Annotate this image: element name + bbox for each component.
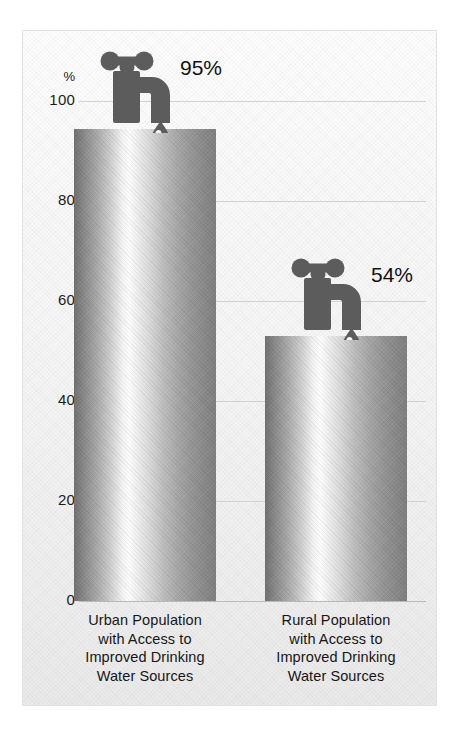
data-label-rural: 54%: [371, 263, 413, 287]
bar-urban-population[interactable]: [74, 129, 216, 601]
category-label-rural-line-4: Water Sources: [250, 667, 422, 686]
y-tick-label-40: 40: [29, 391, 75, 408]
y-tick-label-0: 0: [29, 591, 75, 608]
category-label-urban-line-3: Improved Drinking: [59, 648, 231, 667]
faucet-icon-rural: [287, 258, 371, 340]
y-tick-label-20: 20: [29, 491, 75, 508]
bar-rural-population[interactable]: [265, 336, 407, 601]
y-tick-label-80: 80: [29, 191, 75, 208]
category-label-urban: Urban Population with Access to Improved…: [59, 611, 231, 685]
faucet-icon-urban: [96, 51, 180, 133]
data-label-urban: 95%: [180, 56, 222, 80]
chart-panel: % 100 80 60 40 20 0: [22, 30, 437, 706]
plot-area: % 100 80 60 40 20 0: [23, 31, 438, 707]
category-label-rural-line-3: Improved Drinking: [250, 648, 422, 667]
chart-figure: % 100 80 60 40 20 0: [0, 0, 458, 756]
category-label-rural: Rural Population with Access to Improved…: [250, 611, 422, 685]
category-label-urban-line-4: Water Sources: [59, 667, 231, 686]
y-tick-label-60: 60: [29, 291, 75, 308]
y-axis-unit-label: %: [23, 69, 75, 84]
category-label-urban-line-2: with Access to: [59, 630, 231, 649]
category-label-rural-line-2: with Access to: [250, 630, 422, 649]
category-label-urban-line-1: Urban Population: [59, 611, 231, 630]
y-tick-label-100: 100: [29, 91, 75, 108]
axis-baseline: [79, 601, 426, 602]
category-label-rural-line-1: Rural Population: [250, 611, 422, 630]
